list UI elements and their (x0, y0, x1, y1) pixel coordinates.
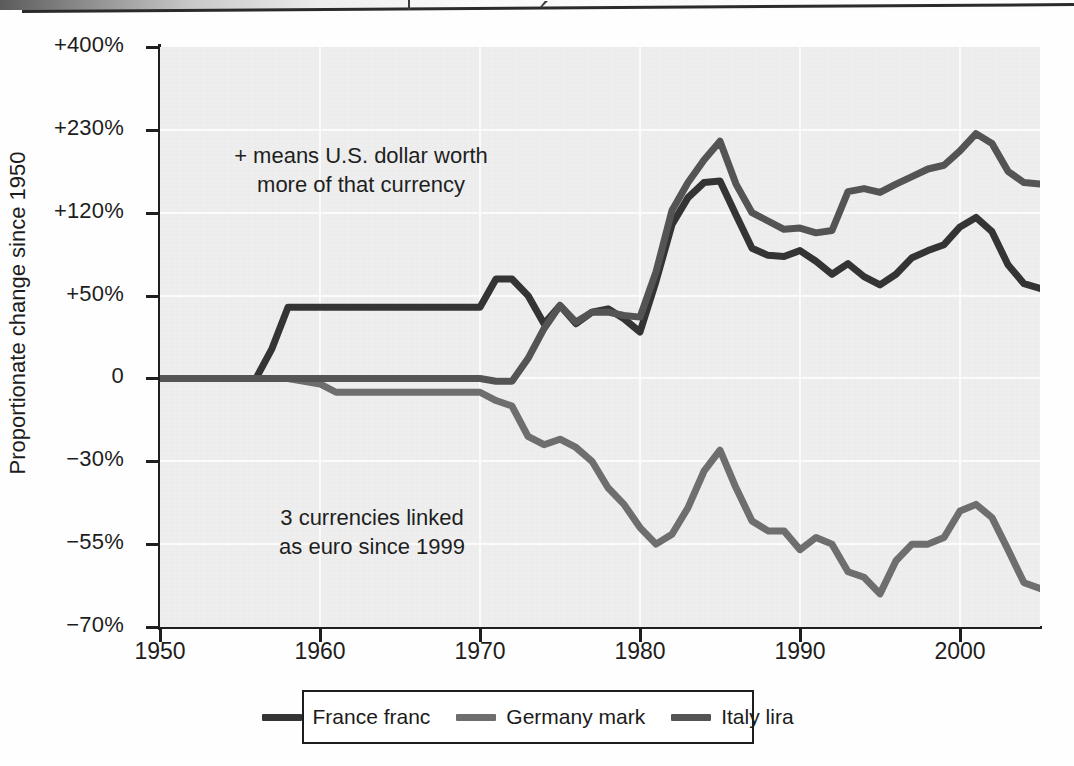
y-axis-tick (146, 543, 160, 546)
y-axis-title: Proportionate change since 1950 (5, 33, 31, 593)
x-axis-tick-label: 2000 (934, 638, 985, 665)
annotation-positive-meaning: + means U.S. dollar worth more of that c… (196, 142, 526, 199)
x-axis-tick-label: 1990 (774, 638, 825, 665)
y-axis-tick (146, 626, 160, 629)
y-axis-tick-label: −30% (66, 446, 124, 472)
y-axis-tick-label: +230% (54, 115, 124, 141)
chart-legend: France francGermany markItaly lira (302, 690, 754, 744)
legend-item-germany-mark: Germany mark (456, 705, 645, 729)
y-axis-tick (146, 129, 160, 132)
y-axis-tick-label: +50% (66, 281, 124, 307)
legend-label: France franc (312, 705, 430, 729)
y-axis-tick-label: −70% (66, 612, 124, 638)
legend-swatch-icon (671, 714, 711, 721)
y-axis-tick (146, 212, 160, 215)
legend-item-france-franc: France franc (262, 705, 430, 729)
y-axis-tick-label: +120% (54, 198, 124, 224)
y-axis-tick (146, 295, 160, 298)
legend-label: Italy lira (721, 705, 793, 729)
y-axis-tick (146, 460, 160, 463)
x-axis-tick-label: 1980 (614, 638, 665, 665)
y-axis-tick (146, 377, 160, 380)
annotation-euro-link: 3 currencies linked as euro since 1999 (238, 504, 506, 561)
legend-label: Germany mark (506, 705, 645, 729)
series-line-france-franc (160, 181, 1040, 378)
legend-swatch-icon (456, 714, 496, 721)
y-axis-tick (146, 46, 160, 49)
x-axis-tick-label: 1950 (134, 638, 185, 665)
y-axis-tick-label: +400% (54, 32, 124, 58)
chart-page: Proportionate change since 1950 +400%+23… (0, 0, 1074, 766)
y-axis-tick-label: 0 (112, 363, 124, 389)
legend-swatch-icon (262, 714, 302, 721)
legend-item-italy-lira: Italy lira (671, 705, 793, 729)
series-line-germany-mark (160, 378, 1040, 593)
y-axis-tick-label: −55% (66, 529, 124, 555)
x-axis-tick-label: 1960 (294, 638, 345, 665)
x-axis-tick-label: 1970 (454, 638, 505, 665)
scan-artifact-tick (408, 0, 410, 10)
